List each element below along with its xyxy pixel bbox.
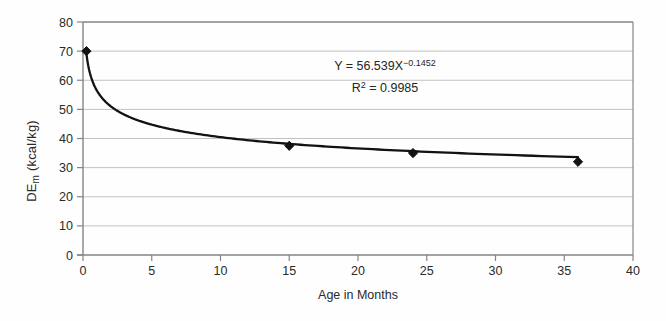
y-tick-label: 0 [66, 249, 73, 263]
y-tick-label: 10 [59, 219, 73, 233]
x-tick-label: 30 [489, 264, 503, 278]
trendline-annotation: Y = 56.539X−0.1452 R2 = 0.9985 [334, 54, 436, 98]
y-tick-label: 50 [59, 103, 73, 117]
y-tick-label: 60 [59, 74, 73, 88]
data-point-marker [408, 148, 417, 157]
chart: 010203040506070800510152025303540 DEm (k… [0, 0, 666, 321]
y-axis-title-subscript: m [30, 175, 41, 184]
x-tick-label: 15 [282, 264, 296, 278]
y-axis-title: DEm (kcal/kg) [24, 120, 41, 202]
x-tick-label: 40 [626, 264, 640, 278]
r-squared: R2 = 0.9985 [334, 76, 436, 98]
trendline-equation: Y = 56.539X−0.1452 [334, 54, 436, 76]
x-tick-label: 20 [351, 264, 365, 278]
trendline-curve [86, 54, 578, 158]
x-tick-label: 35 [557, 264, 571, 278]
y-tick-label: 80 [59, 16, 73, 30]
y-tick-label: 20 [59, 190, 73, 204]
r-squared-base: R [352, 81, 361, 95]
plot-svg: 010203040506070800510152025303540 [0, 0, 666, 321]
x-tick-label: 25 [420, 264, 434, 278]
equation-base: Y = 56.539X [334, 59, 403, 73]
y-axis-title-units: (kcal/kg) [24, 120, 39, 175]
equation-exponent: −0.1452 [403, 58, 436, 68]
x-tick-label: 10 [214, 264, 228, 278]
x-tick-label: 5 [148, 264, 155, 278]
y-axis-title-base: DE [24, 183, 39, 201]
data-point-marker [573, 157, 582, 166]
y-tick-label: 30 [59, 161, 73, 175]
x-axis-title: Age in Months [318, 288, 398, 302]
r-squared-value: = 0.9985 [366, 81, 418, 95]
y-tick-label: 40 [59, 132, 73, 146]
y-tick-label: 70 [59, 45, 73, 59]
x-tick-label: 0 [80, 264, 87, 278]
